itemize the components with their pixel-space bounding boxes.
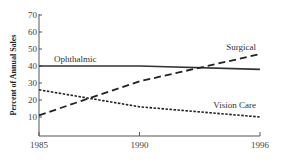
series-line-ophthalmic — [39, 66, 260, 69]
y-tick-label: 30 — [28, 78, 38, 88]
line-chart: Percent of Annual Sales 1020304050607019… — [0, 0, 283, 160]
x-tick-label: 1990 — [130, 140, 149, 150]
y-axis-title: Percent of Annual Sales — [9, 35, 18, 116]
y-axis-title-group: Percent of Annual Sales — [9, 35, 18, 116]
x-tick-label: 1985 — [30, 140, 49, 150]
series-label-ophthalmic: Ophthalmic — [54, 54, 97, 64]
y-tick-label: 70 — [28, 10, 38, 20]
y-tick-label: 60 — [28, 27, 38, 37]
y-tick-label: 40 — [28, 61, 38, 71]
series-label-surgical: Surgical — [226, 42, 256, 52]
y-tick-label: 20 — [28, 95, 38, 105]
y-tick-label: 50 — [28, 44, 38, 54]
y-tick-label: 10 — [28, 112, 38, 122]
series-label-vision-care: Vision Care — [213, 100, 256, 110]
x-tick-label: 1996 — [251, 140, 270, 150]
